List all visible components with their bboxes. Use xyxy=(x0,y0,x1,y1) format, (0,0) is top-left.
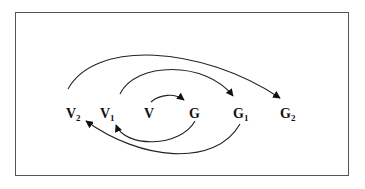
node-g1: G 1 xyxy=(233,106,249,123)
svg-text:G: G xyxy=(280,106,291,121)
svg-text:V: V xyxy=(100,106,110,121)
svg-text:V: V xyxy=(144,106,154,121)
node-v: V xyxy=(144,106,154,121)
svg-text:G: G xyxy=(233,106,244,121)
svg-text:2: 2 xyxy=(76,113,81,123)
node-v1: V 1 xyxy=(100,106,115,123)
svg-text:1: 1 xyxy=(110,113,115,123)
svg-text:G: G xyxy=(189,106,200,121)
node-g2: G 2 xyxy=(280,106,296,123)
node-g: G xyxy=(189,106,200,121)
edge-v1-to-g1 xyxy=(120,70,233,97)
edge-g1-to-v2 xyxy=(86,121,240,154)
edge-g-to-v1 xyxy=(116,121,195,142)
svg-text:V: V xyxy=(66,106,76,121)
svg-text:2: 2 xyxy=(291,113,296,123)
svg-text:1: 1 xyxy=(244,113,249,123)
node-v2: V 2 xyxy=(66,106,81,123)
edge-v-to-g xyxy=(151,95,184,102)
diagram-canvas: V 2 V 1 V G G 1 G 2 xyxy=(0,0,365,189)
edge-v2-to-g2 xyxy=(68,55,280,98)
